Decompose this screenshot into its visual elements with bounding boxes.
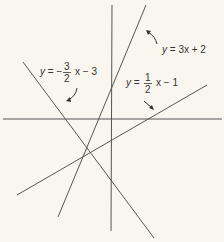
- label-half-x-minus-1: y = 1 2 x − 1: [125, 72, 178, 95]
- svg-text:2: 2: [145, 84, 151, 95]
- line-neg-three-halves-x-minus-3: [23, 62, 154, 238]
- svg-text:3: 3: [64, 61, 70, 72]
- svg-text:x − 3: x − 3: [75, 66, 97, 77]
- y-axis: [111, 5, 112, 231]
- label-3x-plus-2: y = 3x + 2: [161, 44, 206, 55]
- svg-text:x − 1: x − 1: [156, 77, 178, 88]
- label-neg-three-halves-x-minus-3: y = − 3 2 x − 3: [39, 61, 97, 84]
- arrowhead-icon: [146, 30, 151, 35]
- svg-text:1: 1: [145, 72, 151, 83]
- svg-text:2: 2: [64, 73, 70, 84]
- arrowhead-icon: [66, 97, 71, 102]
- arrow-icon-3x-plus-2: [148, 32, 157, 44]
- diagram-canvas: y = 3x + 2 y = − 3 2 x − 3 y = 1 2 x − 1: [0, 0, 224, 242]
- line-3x-plus-2: [58, 5, 146, 217]
- svg-text:y =: y =: [125, 77, 140, 88]
- svg-text:y = −: y = −: [39, 66, 62, 77]
